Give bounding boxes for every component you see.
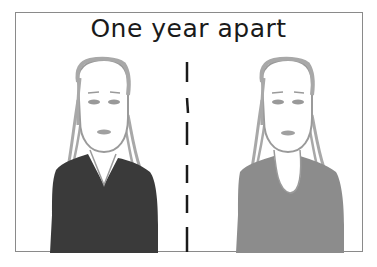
face [262,60,312,152]
eye-left [272,100,284,105]
mouth [97,130,111,135]
eye-right [108,100,120,105]
face [78,60,128,152]
figure-before [50,59,158,253]
eye-right [292,100,304,105]
dashed-divider [187,62,188,252]
comic-illustration [0,0,377,267]
figure-after [236,59,344,253]
mouth [281,131,295,136]
eye-left [88,100,100,105]
